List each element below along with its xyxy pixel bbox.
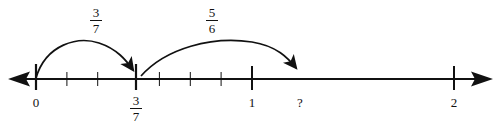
hop-label-first-denominator: 7 [91,21,102,35]
hop-label-second: 5 6 [206,6,218,35]
hop-arc-second [141,40,296,76]
axis-label-three-sevenths-numerator: 3 [131,94,142,108]
number-line-figure: 3 7 5 6 0 3 7 1 ? 2 [0,0,501,126]
axis-label-question: ? [297,96,303,109]
axis-label-three-sevenths: 3 7 [130,94,142,123]
axis-label-zero: 0 [33,96,40,109]
axis-label-one: 1 [249,96,256,109]
hop-label-first-numerator: 3 [91,6,102,20]
axis-label-three-sevenths-denominator: 7 [131,109,142,123]
hop-label-second-denominator: 6 [207,21,218,35]
hop-label-second-numerator: 5 [207,6,218,20]
axis-label-two: 2 [451,96,458,109]
hop-label-first: 3 7 [90,6,102,35]
hop-arc-first [36,41,133,78]
